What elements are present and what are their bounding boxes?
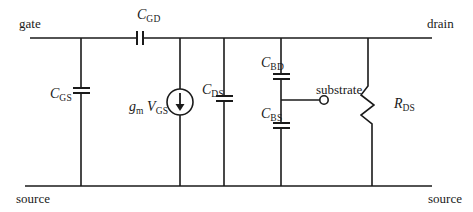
source-label-left: source: [16, 192, 50, 205]
gm-vgs-label: gm VGS: [129, 100, 168, 114]
drain-label: drain: [427, 17, 454, 30]
rds-resistor-icon: [361, 38, 374, 186]
source-label-right: source: [428, 192, 462, 205]
substrate-terminal-icon: [281, 96, 328, 104]
substrate-label: substrate: [316, 83, 362, 96]
cgd-capacitor-icon: [137, 31, 143, 45]
cbs-capacitor-icon: [273, 123, 290, 186]
rds-label: RDS: [394, 97, 415, 111]
cbd-label: CBD: [261, 56, 284, 70]
cds-capacitor-icon: [216, 38, 233, 186]
current-source-icon: [167, 38, 193, 186]
cgs-capacitor-icon: [73, 38, 90, 186]
gate-label: gate: [19, 17, 41, 30]
cbs-label: CBS: [261, 107, 282, 121]
cds-label: CDS: [202, 83, 224, 97]
cgd-label: CGD: [137, 8, 160, 22]
cgs-label: CGS: [50, 87, 72, 101]
